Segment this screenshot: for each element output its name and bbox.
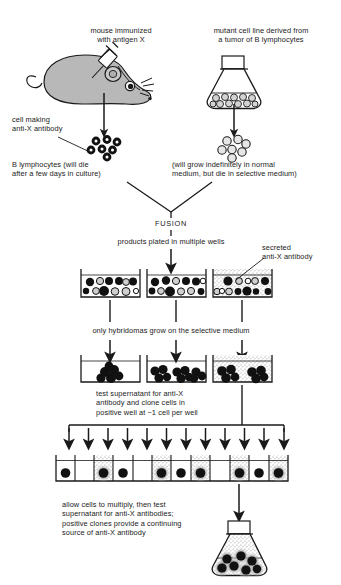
- mouse-illustration: [27, 42, 154, 104]
- myeloma-cell-cluster: [218, 135, 250, 162]
- cloning-well-strip: [56, 455, 288, 482]
- selection-well-2: [147, 355, 206, 383]
- selection-arrows: [110, 300, 242, 357]
- selection-well-3: [213, 355, 272, 383]
- selection-well-1: [81, 355, 140, 383]
- b-lymphocyte-cluster: [87, 135, 122, 161]
- cloning-arrow-manifold: [69, 425, 284, 444]
- fusion-well-1: [81, 269, 140, 297]
- selection-well-row: [81, 355, 272, 383]
- fusion-well-2: [147, 269, 206, 297]
- final-flask: [212, 521, 267, 579]
- figure-canvas: mouse immunized with antigen X mutant ce…: [0, 0, 341, 585]
- leader-cell-making: [58, 137, 92, 153]
- colony: [96, 362, 123, 383]
- diagram-artwork: [0, 0, 341, 585]
- myeloma-flask: [207, 56, 261, 109]
- fusion-join-lines: [127, 182, 212, 218]
- fusion-well-3: [213, 269, 272, 297]
- fusion-well-row: [81, 269, 272, 297]
